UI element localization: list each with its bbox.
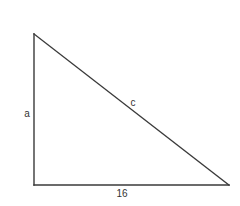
label-c: c — [131, 97, 136, 108]
right-triangle-diagram: a c 16 — [0, 0, 240, 206]
label-base: 16 — [116, 188, 128, 199]
side-hypotenuse — [34, 34, 229, 185]
label-a: a — [24, 108, 30, 119]
